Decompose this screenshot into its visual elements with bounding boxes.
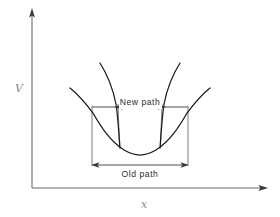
potential-well-figure: New path Old path V x [0, 0, 280, 217]
old-path-measure-group: Old path [91, 162, 189, 179]
inner-well-right-wall-curve [160, 63, 180, 148]
new-path-measure-group: New path [92, 97, 188, 110]
old-path-label: Old path [122, 169, 159, 179]
inner-well-left-wall-curve [100, 63, 120, 148]
y-axis-label: V [15, 82, 24, 95]
new-path-label: New path [120, 97, 161, 107]
guide-lines-group [92, 104, 188, 166]
x-axis-label: x [141, 198, 148, 211]
figure-canvas: New path Old path V x [0, 0, 280, 217]
